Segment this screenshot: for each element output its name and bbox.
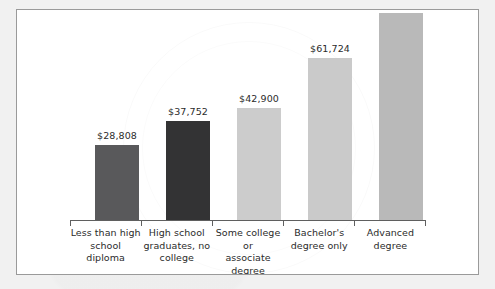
bar-group-bachelors-degree: $61,724 [308, 58, 352, 221]
category-label-line: degree [355, 240, 426, 253]
category-label-advanced-degree: Advanced degree [355, 224, 426, 268]
category-label-high-school-graduates: High school graduates, no college [141, 224, 212, 268]
plot-area: $28,808 $37,752 $42,900 $61,724 $78,624 [17, 10, 478, 274]
category-label-line: Less than high [70, 227, 141, 240]
category-axis-labels: Less than high school diploma High schoo… [70, 224, 426, 268]
category-label-line: degree only [284, 240, 355, 253]
bar-rect[interactable] [95, 145, 139, 221]
bar-group-some-college: $42,900 [237, 108, 281, 221]
bar-value-label: $37,752 [168, 106, 208, 117]
bar-rect[interactable] [237, 108, 281, 221]
bar-rect[interactable] [166, 121, 210, 221]
category-label-line: High school [141, 227, 212, 240]
bar-rect[interactable] [308, 58, 352, 221]
category-label-less-than-high-school: Less than high school diploma [70, 224, 141, 268]
bar-value-label: $42,900 [239, 93, 279, 104]
bar-group-less-than-high-school: $28,808 [95, 145, 139, 221]
category-label-line: college [141, 252, 212, 265]
category-label-bachelors-degree: Bachelor's degree only [284, 224, 355, 268]
x-axis-line [70, 220, 426, 221]
category-label-line: Advanced [355, 227, 426, 240]
bar-group-advanced-degree: $78,624 [379, 13, 423, 221]
category-label-line: Some college or [212, 227, 283, 252]
bar-rect[interactable] [379, 13, 423, 221]
category-label-line: Bachelor's [284, 227, 355, 240]
bar-group-high-school-graduates: $37,752 [166, 121, 210, 221]
category-label-some-college: Some college or associate degree [212, 224, 283, 268]
category-label-line: associate degree [212, 252, 283, 275]
bar-value-label: $28,808 [97, 130, 137, 141]
chart-panel: $28,808 $37,752 $42,900 $61,724 $78,624 [16, 9, 479, 275]
bar-value-label: $61,724 [310, 43, 350, 54]
category-label-line: school diploma [70, 240, 141, 265]
category-label-line: graduates, no [141, 240, 212, 253]
